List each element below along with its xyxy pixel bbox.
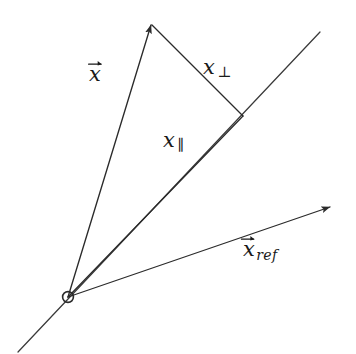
x-vector-label: x — [89, 64, 101, 85]
x-parallel-label-base: x — [163, 128, 175, 152]
x-vector-arrow — [68, 25, 151, 297]
x-reference-label-base: x — [243, 239, 255, 260]
x-reference-label-subscript: ref — [256, 247, 277, 263]
x-parallel-label: x∥ — [163, 130, 184, 153]
x-vector-label-base: x — [89, 64, 101, 85]
x-ref-vector-arrow — [68, 207, 330, 297]
x-perpendicular-label: x⊥ — [203, 57, 231, 80]
x-parallel-label-subscript: ∥ — [177, 136, 184, 154]
figure-canvas — [0, 0, 356, 354]
vector-decomposition-figure: x x⊥ x∥ x ref — [0, 0, 356, 354]
x-perpendicular-label-base: x — [203, 55, 215, 79]
x-perpendicular-label-subscript: ⊥ — [217, 63, 231, 81]
x-reference-label: x ref — [243, 239, 277, 262]
x-parallel-segment — [68, 116, 243, 297]
